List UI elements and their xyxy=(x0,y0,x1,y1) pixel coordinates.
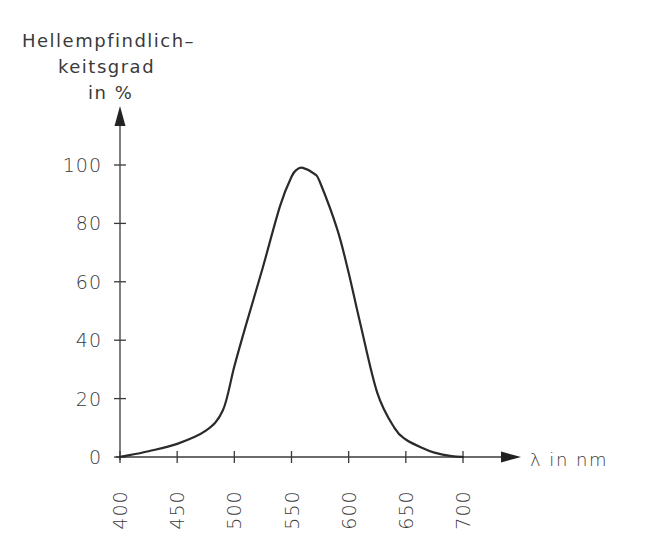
sensitivity-curve xyxy=(120,168,463,457)
y-tick-label: 40 xyxy=(76,329,102,351)
y-tick-label: 20 xyxy=(76,388,102,410)
y-axis-arrow-icon xyxy=(115,106,126,126)
x-tick-label: 600 xyxy=(338,490,360,529)
y-tick-label: 80 xyxy=(76,212,102,234)
x-tick-label: 500 xyxy=(223,490,245,529)
y-tick-label: 60 xyxy=(76,271,102,293)
x-ticks: 400450500550600650700 xyxy=(109,451,474,530)
luminosity-chart: 020406080100 400450500550600650700 λ in … xyxy=(0,0,657,548)
x-axis-label: λ in nm xyxy=(530,449,608,470)
y-tick-label: 0 xyxy=(89,446,102,468)
x-tick-label: 400 xyxy=(109,490,131,529)
x-tick-label: 650 xyxy=(395,490,417,529)
y-ticks: 020406080100 xyxy=(63,154,126,468)
x-axis-arrow-icon xyxy=(501,452,521,463)
x-tick-label: 450 xyxy=(166,490,188,529)
x-tick-label: 550 xyxy=(281,490,303,529)
y-tick-label: 100 xyxy=(63,154,102,176)
x-tick-label: 700 xyxy=(452,490,474,529)
axes xyxy=(115,106,522,463)
